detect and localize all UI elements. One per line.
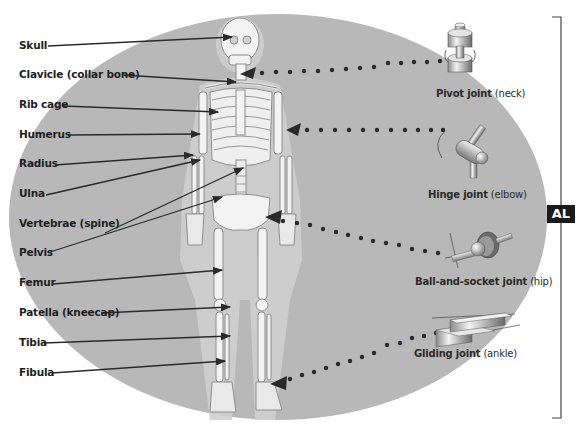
bone-label-pelvis: Pelvis xyxy=(19,246,53,258)
joint-name: Hinge joint xyxy=(428,189,488,200)
joint-location: (neck) xyxy=(495,88,525,99)
bone-label-femur: Femur xyxy=(19,276,55,288)
joint-location: (elbow) xyxy=(491,189,527,200)
al-badge: AL xyxy=(547,205,575,223)
joint-name: Gliding joint xyxy=(414,348,480,359)
pivot-joint-icon xyxy=(445,23,475,72)
bone-label-clavicle: Clavicle (collar bone) xyxy=(19,68,140,80)
joint-name: Pivot joint xyxy=(436,88,492,99)
bone-label-rib-cage: Rib cage xyxy=(19,98,68,110)
bone-label-ulna: Ulna xyxy=(19,187,45,199)
bone-label-skull: Skull xyxy=(19,39,47,51)
bone-label-tibia: Tibia xyxy=(19,336,47,348)
joint-location: (hip) xyxy=(530,276,552,287)
bone-label-humerus: Humerus xyxy=(19,128,71,140)
bone-label-radius: Radius xyxy=(19,157,58,169)
joint-label-ball-socket: Ball-and-socket joint (hip) xyxy=(415,276,552,287)
joint-label-hinge: Hinge joint (elbow) xyxy=(428,189,527,200)
joint-name: Ball-and-socket joint xyxy=(415,276,527,287)
bone-label-patella: Patella (kneecap) xyxy=(19,306,119,318)
bone-label-vertebrae: Vertebrae (spine) xyxy=(19,217,120,229)
bone-label-fibula: Fibula xyxy=(19,366,54,378)
joint-location: (ankle) xyxy=(483,348,517,359)
joint-label-pivot: Pivot joint (neck) xyxy=(436,88,525,99)
joint-label-gliding: Gliding joint (ankle) xyxy=(414,348,517,359)
